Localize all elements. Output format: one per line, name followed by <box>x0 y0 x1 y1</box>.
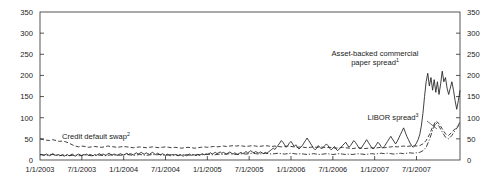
x-tick-label: 1/1/2007 <box>360 165 389 174</box>
x-tick-label: 7/1/2003 <box>67 165 96 174</box>
x-tick-label: 7/1/2004 <box>151 165 180 174</box>
abcp-annotation-line1: Asset-backed commercial <box>332 49 419 58</box>
cds-annotation: Credit default swap2 <box>62 131 130 141</box>
y-tick-label-right: 100 <box>467 114 480 123</box>
spread-line-chart: 050100150200250300350 050100150200250300… <box>0 0 499 188</box>
y-tick-label-left: 150 <box>20 92 33 101</box>
x-tick-label: 1/1/2006 <box>277 165 306 174</box>
x-tick-label: 1/1/2004 <box>109 165 138 174</box>
x-tick-label: 1/1/2003 <box>26 165 55 174</box>
y-tick-label-right: 250 <box>467 50 480 59</box>
chart-container: 050100150200250300350 050100150200250300… <box>0 0 499 188</box>
abcp-annotation-line2: paper spread <box>351 58 396 67</box>
x-tick-label: 1/1/2005 <box>193 165 222 174</box>
y-tick-label-right: 50 <box>467 135 475 144</box>
y-tick-label-right: 350 <box>467 8 480 17</box>
libor-annotation: LIBOR spread3 <box>367 112 418 122</box>
y-axis-right: 050100150200250300350 <box>456 8 480 165</box>
annotation-group: Asset-backed commercialpaper spread1LIBO… <box>62 49 419 141</box>
y-tick-label-right: 0 <box>467 156 471 165</box>
cds-annotation-superscript: 2 <box>127 131 130 137</box>
y-tick-label-right: 150 <box>467 92 480 101</box>
x-tick-label: 7/1/2005 <box>235 165 264 174</box>
y-tick-label-left: 300 <box>20 29 33 38</box>
y-tick-label-right: 200 <box>467 71 480 80</box>
libor-annotation-line1: LIBOR spread <box>367 113 415 122</box>
y-tick-label-left: 200 <box>20 71 33 80</box>
x-tick-label: 7/1/2006 <box>318 165 347 174</box>
y-tick-label-left: 0 <box>29 156 33 165</box>
x-axis: 1/1/20037/1/20031/1/20047/1/20041/1/2005… <box>26 156 431 174</box>
abcp-annotation-superscript: 1 <box>396 57 399 63</box>
libor-annotation-superscript: 3 <box>416 112 419 118</box>
cds-annotation-line1: Credit default swap <box>62 132 127 141</box>
x-tick-label: 7/1/2007 <box>402 165 431 174</box>
y-tick-label-left: 50 <box>25 135 33 144</box>
abcp-annotation: Asset-backed commercialpaper spread1 <box>332 49 419 67</box>
y-axis-left: 050100150200250300350 <box>20 8 44 165</box>
y-tick-label-left: 350 <box>20 8 33 17</box>
y-tick-label-left: 100 <box>20 114 33 123</box>
y-tick-label-right: 300 <box>467 29 480 38</box>
y-tick-label-left: 250 <box>20 50 33 59</box>
